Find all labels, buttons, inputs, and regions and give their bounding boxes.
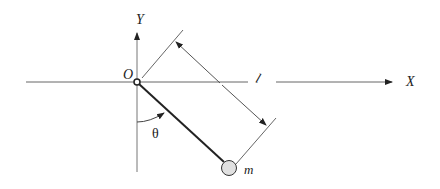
- origin-label: O: [123, 68, 133, 82]
- y-axis-label: Y: [136, 13, 144, 27]
- diagram-graphics: [0, 0, 440, 189]
- pendulum-rod: [139, 84, 224, 162]
- length-dimension-line-lower: [222, 85, 266, 125]
- extension-line-bottom: [236, 118, 276, 164]
- mass-bob: [222, 161, 237, 176]
- x-axis-label: X: [406, 75, 415, 89]
- angle-arc: [137, 113, 164, 122]
- length-dimension-line: [176, 42, 220, 83]
- pivot-icon: [134, 79, 140, 85]
- extension-line-top: [142, 30, 183, 78]
- angle-label: θ: [152, 127, 159, 141]
- mass-label: m: [244, 163, 253, 176]
- pendulum-diagram: Y O X l θ m: [0, 0, 440, 189]
